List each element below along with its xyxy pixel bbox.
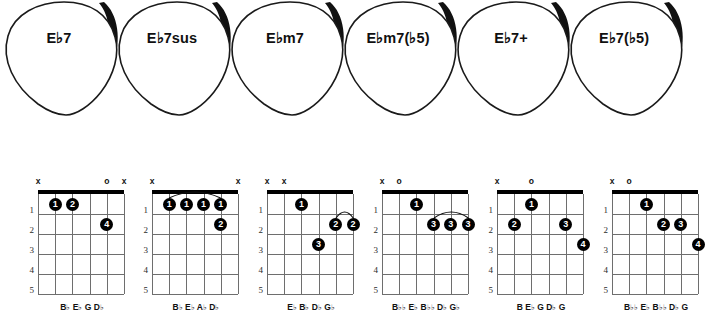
fret-number: 5 [366, 280, 378, 300]
nut [267, 190, 353, 194]
fretboard-grid: 1223 [267, 190, 353, 298]
pick-eb7b5: E♭7(♭5) [565, 0, 693, 122]
chord-diagrams-row: 12345xox124B♭ E♭ G D♭12345xx11112B♭ E♭ A… [0, 176, 683, 322]
chord-diagram-eb7: 12345xox124B♭ E♭ G D♭ [22, 176, 137, 316]
fret-number: 3 [136, 240, 148, 260]
guitar-pick-shape [113, 0, 241, 122]
muted-string-marker: x [233, 176, 243, 186]
fret-line [152, 214, 238, 215]
fret-number: 5 [22, 280, 34, 300]
pick-eb7sus: E♭7sus [113, 0, 241, 122]
fretboard-grid: 1234 [612, 190, 698, 298]
string-markers: xo [382, 176, 468, 190]
fret-line [38, 234, 124, 235]
pick-chord-label: E♭m7(♭5) [339, 30, 457, 46]
fret-number-column: 12345 [251, 200, 263, 300]
open-string-marker: o [624, 176, 634, 186]
string-line [238, 194, 239, 294]
finger-dot: 2 [214, 218, 227, 231]
fret-line [612, 214, 698, 215]
string-line [629, 194, 630, 294]
chord-diagram-ebm7: 12345xx1223E♭ B♭ D♭ G♭ [251, 176, 366, 316]
guitar-pick-shape [452, 0, 580, 122]
muted-string-marker: x [377, 176, 387, 186]
fretboard-grid: 1333 [382, 190, 468, 298]
chord-picks-row: E♭7E♭7susE♭m7E♭m7(♭5)E♭7+E♭7(♭5) [0, 0, 683, 130]
finger-dot: 1 [197, 198, 210, 211]
finger-dot: 2 [66, 198, 79, 211]
string-markers: xo [612, 176, 698, 190]
string-line [399, 194, 400, 294]
pick-chord-label: E♭7 [0, 30, 118, 46]
barre-arc [164, 187, 226, 199]
fret-line [38, 294, 124, 295]
finger-dot: 3 [559, 218, 572, 231]
fretboard-grid: 124 [38, 190, 124, 298]
fret-line [497, 214, 583, 215]
fret-line [497, 294, 583, 295]
chord-diagram-ebm7b5: 12345xo1333B♭♭ E♭ B♭♭ D♭ G♭ [366, 176, 481, 316]
fret-line [38, 254, 124, 255]
pick-chord-label: E♭7sus [113, 30, 231, 46]
fret-number: 3 [22, 240, 34, 260]
fret-line [152, 274, 238, 275]
finger-dot: 2 [657, 218, 670, 231]
pick-eb7aug: E♭7+ [452, 0, 580, 122]
chord-note-names: B♭♭ E♭ B♭♭ D♭ G♭ [376, 302, 476, 312]
pick-chord-label: E♭7+ [452, 30, 570, 46]
fret-number: 2 [366, 220, 378, 240]
string-line [152, 194, 153, 294]
string-line [681, 194, 682, 294]
fretboard-grid: 1234 [497, 190, 583, 298]
finger-dot: 2 [347, 218, 360, 231]
muted-string-marker: x [33, 176, 43, 186]
finger-dot: 3 [427, 218, 440, 231]
finger-dot: 1 [410, 198, 423, 211]
fret-line [382, 294, 468, 295]
pick-ebm7b5: E♭m7(♭5) [339, 0, 467, 122]
fret-line [382, 254, 468, 255]
fret-line [267, 294, 353, 295]
fret-number: 1 [251, 200, 263, 220]
fret-number: 4 [596, 260, 608, 280]
nut [612, 190, 698, 194]
fret-number: 1 [136, 200, 148, 220]
chord-note-names: E♭ B♭ D♭ G♭ [261, 302, 361, 312]
fret-number: 5 [596, 280, 608, 300]
fret-number: 2 [251, 220, 263, 240]
fret-number: 1 [596, 200, 608, 220]
finger-dot: 2 [329, 218, 342, 231]
string-line [38, 194, 39, 294]
fret-line [38, 274, 124, 275]
string-line [107, 194, 108, 294]
finger-dot: 2 [508, 218, 521, 231]
muted-string-marker: x [147, 176, 157, 186]
fret-number-column: 12345 [22, 200, 34, 300]
fret-number: 2 [136, 220, 148, 240]
string-line [566, 194, 567, 294]
finger-dot: 4 [577, 238, 590, 251]
chord-note-names: B♭ E♭ G D♭ [32, 302, 132, 312]
fret-number: 5 [136, 280, 148, 300]
finger-dot: 1 [49, 198, 62, 211]
fret-number: 1 [481, 200, 493, 220]
fret-line [152, 254, 238, 255]
string-line [664, 194, 665, 294]
fret-number: 4 [251, 260, 263, 280]
finger-dot: 1 [295, 198, 308, 211]
finger-dot: 3 [444, 218, 457, 231]
open-string-marker: o [526, 176, 536, 186]
string-line [382, 194, 383, 294]
guitar-pick-shape [565, 0, 693, 122]
chord-note-names: B♭ E♭ A♭ D♭ [146, 302, 246, 312]
fret-line [612, 234, 698, 235]
pick-chord-label: E♭m7 [226, 30, 344, 46]
string-line [497, 194, 498, 294]
pick-eb7: E♭7 [0, 0, 128, 122]
string-markers: xo [497, 176, 583, 190]
muted-string-marker: x [279, 176, 289, 186]
fret-number-column: 12345 [366, 200, 378, 300]
finger-dot: 4 [692, 238, 705, 251]
finger-dot: 3 [312, 238, 325, 251]
string-markers: xox [38, 176, 124, 190]
